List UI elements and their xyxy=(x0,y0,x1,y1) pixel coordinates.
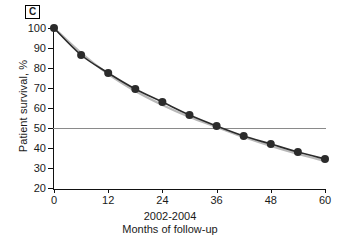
data-point-marker xyxy=(267,140,275,148)
data-point-marker xyxy=(104,69,112,77)
survival-curve-figure: C Patient survival, % 203040506070809010… xyxy=(0,0,340,243)
data-point-marker xyxy=(77,51,85,59)
data-point-marker xyxy=(186,111,194,119)
plot-area xyxy=(0,0,340,243)
data-point-marker xyxy=(50,24,58,32)
data-point-marker xyxy=(158,98,166,106)
x-axis-period-label: 2002-2004 xyxy=(0,210,340,223)
series-observed-survival xyxy=(50,24,329,163)
x-axis-title: Months of follow-up xyxy=(0,223,340,236)
data-point-marker xyxy=(131,85,139,93)
data-point-marker xyxy=(240,132,248,140)
x-axis-titles: 2002-2004 Months of follow-up xyxy=(0,210,340,236)
series-line xyxy=(54,28,325,159)
data-point-marker xyxy=(294,148,302,156)
series-line xyxy=(54,28,325,161)
data-point-marker xyxy=(321,155,329,163)
data-point-marker xyxy=(213,122,221,130)
series-expected-survival xyxy=(54,28,325,161)
